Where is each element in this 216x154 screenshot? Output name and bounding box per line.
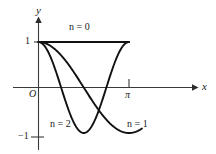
curve-label-n1: n = 1 [127,119,148,129]
y-tick-label-one: 1 [25,36,30,46]
curve-label-n2: n = 2 [50,119,71,129]
plot-canvas [0,0,216,154]
curve-label-n0: n = 0 [69,22,90,32]
origin-label: O [29,89,36,99]
x-tick-label-pi: π [125,90,130,100]
cosine-curves-figure: y x O 1 −1 π n = 0 n = 2 n = 1 [0,0,216,154]
y-axis-label: y [36,5,41,16]
y-tick-label-negative-one: −1 [18,131,29,141]
x-axis-label: x [202,81,207,92]
